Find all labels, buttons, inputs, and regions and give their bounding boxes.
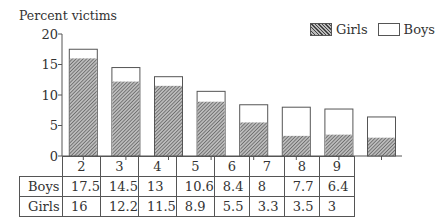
boys-cell: 7.7	[284, 177, 319, 197]
girls-cell: 5.5	[214, 197, 249, 217]
girls-cell: 8.9	[176, 197, 214, 217]
row-label-boys: Boys	[20, 177, 63, 197]
girls-cell: 3.5	[284, 197, 319, 217]
boys-cell: 14.5	[100, 177, 138, 197]
category-8: 8	[284, 157, 319, 177]
boys-cell: 8.4	[214, 177, 249, 197]
category-4: 4	[138, 157, 176, 177]
girls-cell: 3	[319, 197, 354, 217]
bar-girls	[283, 136, 310, 156]
boys-cell: 8	[249, 177, 284, 197]
corner-cell	[20, 157, 63, 177]
bar-girls	[70, 58, 97, 156]
category-9: 9	[319, 157, 354, 177]
girls-cell: 12.2	[100, 197, 138, 217]
boys-cell: 10.6	[176, 177, 214, 197]
table-row-boys: Boys 17.5 14.5 13 10.6 8.4 8 7.7 6.4	[20, 177, 355, 197]
category-6: 6	[214, 157, 249, 177]
bar-girls	[198, 102, 225, 156]
category-5: 5	[176, 157, 214, 177]
table-row-girls: Girls 16 12.2 11.5 8.9 5.5 3.3 3.5 3	[20, 197, 355, 217]
bar-girls	[112, 82, 139, 156]
girls-cell: 16	[63, 197, 101, 217]
category-2: 2	[63, 157, 101, 177]
bar-girls	[368, 138, 395, 156]
boys-cell: 13	[138, 177, 176, 197]
boys-cell: 17.5	[63, 177, 101, 197]
girls-cell: 11.5	[138, 197, 176, 217]
bar-girls	[155, 86, 182, 156]
row-label-girls: Girls	[20, 197, 63, 217]
category-7: 7	[249, 157, 284, 177]
bar-girls	[325, 135, 352, 156]
bar-girls	[240, 122, 267, 156]
girls-cell: 3.3	[249, 197, 284, 217]
category-3: 3	[100, 157, 138, 177]
boys-cell: 6.4	[319, 177, 354, 197]
data-table: 2 3 4 5 6 7 8 9 Boys 17.5 14.5 13 10.6 8…	[19, 156, 355, 217]
